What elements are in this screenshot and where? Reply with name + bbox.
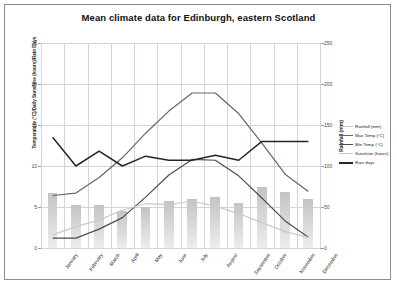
y-axis-left-tick-label: 20 — [19, 82, 37, 87]
y-axis-right-tick — [321, 207, 324, 208]
legend-label: Max Temp (°C) — [355, 131, 384, 140]
x-axis-tick-label: April — [130, 252, 141, 264]
legend-label: Rainfall (mm) — [355, 122, 381, 131]
x-axis-tick-label: May — [153, 252, 163, 263]
chart-frame: Mean climate data for Edinburgh, eastern… — [4, 4, 391, 280]
y-axis-right-tick — [321, 84, 324, 85]
y-axis-left-tick-label: 25 — [19, 41, 37, 46]
line-series — [53, 93, 309, 196]
y-axis-left-title: Temperature (°C)/Daily Sunshine (hours)/… — [32, 39, 37, 149]
y-axis-left-tick-label: 5 — [19, 205, 37, 210]
x-axis-tick-label: January — [63, 252, 78, 270]
chart-title: Mean climate data for Edinburgh, eastern… — [5, 12, 392, 23]
x-axis-tick-label: February — [87, 252, 103, 272]
legend-swatch-icon — [339, 153, 353, 154]
x-axis-tick-label: September — [252, 252, 271, 275]
legend-item[interactable]: Min Temp (°C) — [339, 140, 397, 149]
legend-swatch-icon — [339, 135, 353, 136]
chart-legend: Rainfall (mm)Max Temp (°C)Min Temp (°C)S… — [339, 122, 397, 167]
x-axis-tick-label: December — [321, 252, 339, 274]
y-axis-right-tick — [321, 166, 324, 167]
legend-label: Sunshine (hours) — [355, 149, 388, 158]
legend-item[interactable]: Sunshine (hours) — [339, 149, 397, 158]
y-axis-left-tick-label: 15 — [19, 123, 37, 128]
y-axis-right-tick-label: 50 — [324, 205, 344, 210]
y-axis-right-tick — [321, 43, 324, 44]
legend-label: Min Temp (°C) — [355, 140, 383, 149]
x-axis-tick-label: October — [272, 252, 287, 270]
y-axis-left-tick-label: 10 — [19, 164, 37, 169]
y-axis-right-tick-label: 0 — [324, 246, 344, 251]
legend-swatch-icon — [339, 126, 353, 127]
x-axis-tick-label: June — [176, 252, 187, 264]
x-axis-tick-label: November — [298, 252, 316, 274]
legend-swatch-icon — [339, 162, 353, 164]
y-axis-right-tick — [321, 125, 324, 126]
legend-item[interactable]: Rainfall (mm) — [339, 122, 397, 131]
x-axis-tick-label: July — [199, 252, 209, 263]
x-axis-tick-label: March — [108, 252, 121, 267]
plot-area — [41, 43, 320, 248]
x-axis-tick-label: August — [225, 252, 239, 268]
gridline-vertical — [320, 43, 321, 248]
gridline-horizontal — [41, 248, 320, 249]
y-axis-right-tick-label: 200 — [324, 82, 344, 87]
legend-swatch-icon — [339, 144, 353, 145]
y-axis-left-tick-label: 0 — [19, 246, 37, 251]
y-axis-right-tick — [321, 248, 324, 249]
line-series — [53, 137, 309, 166]
y-axis-right-tick-label: 250 — [324, 41, 344, 46]
legend-item[interactable]: Max Temp (°C) — [339, 131, 397, 140]
legend-item[interactable]: Rain days — [339, 158, 397, 167]
line-series-group — [41, 43, 320, 248]
legend-label: Rain days — [355, 158, 375, 167]
